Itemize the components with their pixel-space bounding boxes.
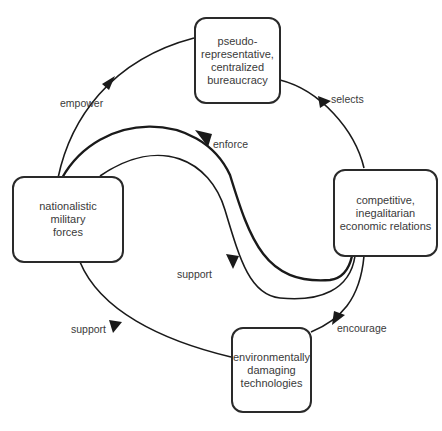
node-text: forces xyxy=(39,226,96,239)
label-enforce: enforce xyxy=(213,138,248,150)
label-encourage: encourage xyxy=(337,322,387,334)
node-text: environmentally xyxy=(233,351,310,364)
node-text: pseudo- xyxy=(201,35,274,48)
node-text: bureaucracy xyxy=(201,74,274,87)
node-military-forces: nationalistic military forces xyxy=(12,176,124,263)
node-text: centralized xyxy=(201,61,274,74)
node-text: damaging xyxy=(233,364,310,377)
node-bureaucracy: pseudo- representative, centralized bure… xyxy=(194,17,281,104)
label-selects: selects xyxy=(331,93,364,105)
node-text: inegalitarian xyxy=(340,207,432,220)
arrow-selects-icon xyxy=(318,96,331,108)
label-support-inner: support xyxy=(177,268,212,280)
node-text: technologies xyxy=(233,377,310,390)
node-economic-relations: competitive, inegalitarian economic rela… xyxy=(333,169,438,257)
label-empower: empower xyxy=(60,97,103,109)
node-technologies: environmentally damaging technologies xyxy=(231,327,312,413)
node-text: representative, xyxy=(201,48,274,61)
edge-support-inner xyxy=(100,155,355,298)
arrow-support-inner-icon xyxy=(226,254,239,269)
label-support-outer: support xyxy=(71,323,106,335)
node-text: military xyxy=(39,213,96,226)
node-text: nationalistic xyxy=(39,200,96,213)
node-text: competitive, xyxy=(340,194,432,207)
arrow-support-outer-icon xyxy=(109,320,122,333)
node-text: economic relations xyxy=(340,220,432,233)
arrow-empower-icon xyxy=(102,76,115,90)
